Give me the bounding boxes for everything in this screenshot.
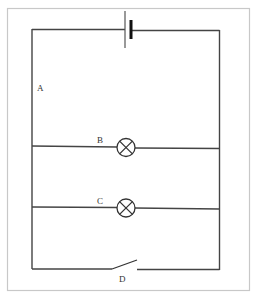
wire-branch-b-left (32, 146, 117, 147)
lamp-b-icon (117, 139, 135, 157)
wire-branch-c-left (32, 207, 117, 208)
wires (32, 29, 220, 270)
battery-icon (125, 11, 131, 48)
lamp-c-icon (117, 199, 135, 217)
label-a: A (37, 84, 44, 93)
label-d: D (119, 275, 126, 284)
circuit-diagram (0, 0, 256, 297)
switch-d-icon (112, 260, 137, 269)
label-b: B (97, 136, 103, 145)
label-c: C (97, 197, 103, 206)
wire-branch-b-right (135, 148, 220, 149)
wire-branch-c-right (135, 208, 220, 209)
